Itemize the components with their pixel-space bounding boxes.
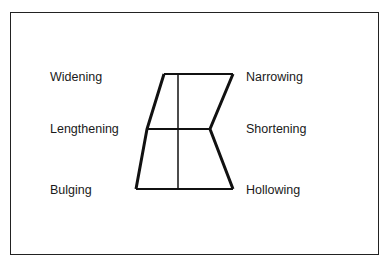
label-shortening: Shortening	[246, 122, 306, 136]
label-narrowing: Narrowing	[246, 70, 303, 84]
label-hollowing: Hollowing	[246, 183, 300, 197]
left-edge	[136, 74, 164, 189]
label-bulging: Bulging	[50, 183, 92, 197]
label-widening: Widening	[50, 70, 102, 84]
label-lengthening: Lengthening	[50, 122, 119, 136]
right-edge	[210, 74, 233, 189]
